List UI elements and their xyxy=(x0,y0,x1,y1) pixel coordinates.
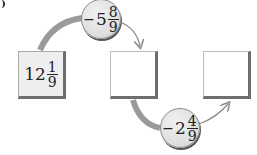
start-value-box: 12 1 9 xyxy=(18,51,66,99)
operation-circle-1: − 5 8 9 xyxy=(81,0,121,39)
middle-answer-box[interactable] xyxy=(110,51,158,99)
op2-minus-sign: − xyxy=(162,120,174,136)
arc-start-to-op1 xyxy=(40,18,82,50)
operation-circle-2: − 2 4 9 xyxy=(160,108,200,148)
arc-middle-to-op2 xyxy=(133,100,160,128)
arrow-op2-to-end xyxy=(199,104,228,124)
fraction-subtraction-diagram: 12 1 9 − 5 8 9 − 2 4 9 xyxy=(0,0,257,155)
op1-mixed-number: − 5 8 9 xyxy=(83,5,118,34)
op1-denominator: 9 xyxy=(109,20,118,34)
start-denominator: 9 xyxy=(48,75,57,89)
start-fraction: 1 9 xyxy=(47,60,58,89)
op2-whole: 2 xyxy=(175,120,186,137)
arrow-op1-to-middle xyxy=(120,22,140,46)
start-numerator: 1 xyxy=(47,60,58,75)
op1-fraction: 8 9 xyxy=(108,5,119,34)
op1-whole: 5 xyxy=(96,11,107,28)
op2-mixed-number: − 2 4 9 xyxy=(162,114,197,143)
start-mixed-number: 12 1 9 xyxy=(24,60,58,89)
op1-minus-sign: − xyxy=(83,11,95,27)
op1-numerator: 8 xyxy=(108,5,119,20)
op2-fraction: 4 9 xyxy=(187,114,198,143)
op2-numerator: 4 xyxy=(187,114,198,129)
op2-denominator: 9 xyxy=(188,129,197,143)
end-answer-box[interactable] xyxy=(203,51,251,99)
start-whole: 12 xyxy=(24,66,46,83)
